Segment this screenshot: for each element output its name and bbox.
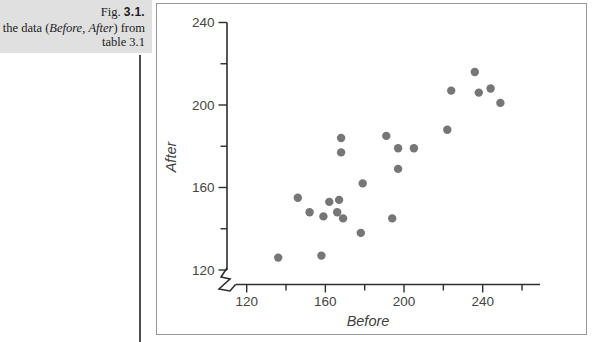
y-tick-label: 240	[192, 15, 215, 30]
data-point	[319, 212, 327, 220]
caption-text-line: of the data (Before, After) from	[0, 21, 145, 36]
data-point	[305, 208, 313, 216]
data-point	[339, 214, 347, 222]
data-point	[475, 88, 483, 96]
caption-column-rule	[139, 55, 141, 342]
data-point	[337, 148, 345, 156]
caption-text-suffix: ) from	[113, 21, 145, 35]
data-point	[317, 251, 325, 259]
data-point	[325, 198, 333, 206]
figure-caption: Fig. 3.1. of the data (Before, After) fr…	[0, 0, 152, 53]
caption-text: of the data (	[0, 21, 49, 35]
data-point	[359, 179, 367, 187]
x-tick-label: 200	[393, 294, 416, 309]
data-point	[410, 144, 418, 152]
y-tick-label: 200	[192, 98, 215, 113]
caption-before-word: Before	[49, 21, 82, 35]
data-point	[496, 99, 504, 107]
data-point	[335, 196, 343, 204]
data-point	[486, 84, 494, 92]
data-point	[394, 165, 402, 173]
data-point	[388, 214, 396, 222]
data-point	[447, 86, 455, 94]
data-point	[294, 194, 302, 202]
figure-number: 3.1.	[124, 5, 145, 19]
scatter-plot: 120160200240120160200240AfterBefore	[157, 4, 585, 333]
data-point	[357, 229, 365, 237]
plot-frame: 120160200240120160200240AfterBefore	[156, 3, 587, 335]
axis-break-icon	[219, 268, 236, 291]
figure-label-prefix: Fig.	[101, 5, 124, 19]
x-tick-label: 160	[314, 294, 337, 309]
y-axis-label: After	[163, 141, 179, 174]
caption-table-ref: table 3.1	[102, 35, 145, 50]
data-point	[337, 134, 345, 142]
y-tick-label: 120	[192, 263, 215, 278]
x-tick-label: 120	[235, 294, 258, 309]
data-point	[394, 144, 402, 152]
y-tick-label: 160	[192, 180, 215, 195]
x-tick-label: 240	[471, 294, 494, 309]
data-point	[443, 126, 451, 134]
data-point	[333, 208, 341, 216]
figure-label: Fig. 3.1.	[101, 5, 145, 20]
caption-after-word: After	[88, 21, 113, 35]
data-point	[274, 253, 282, 261]
x-axis-label: Before	[347, 313, 390, 329]
data-point	[382, 132, 390, 140]
data-point	[471, 68, 479, 76]
